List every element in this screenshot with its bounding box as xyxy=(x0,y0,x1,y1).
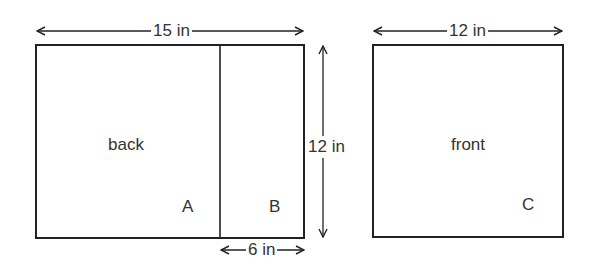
section-c-label: C xyxy=(522,196,534,214)
front-panel-label: front xyxy=(451,136,485,154)
back-height-label: 12 in xyxy=(308,136,345,158)
section-b-label: B xyxy=(269,198,280,216)
front-width-label: 12 in xyxy=(447,22,488,40)
back-width-label: 15 in xyxy=(151,22,192,40)
section-b-width-label: 6 in xyxy=(246,241,277,259)
back-panel-label: back xyxy=(108,136,144,154)
diagram-canvas xyxy=(0,0,599,273)
back-panel xyxy=(36,45,304,238)
section-a-label: A xyxy=(182,198,193,216)
